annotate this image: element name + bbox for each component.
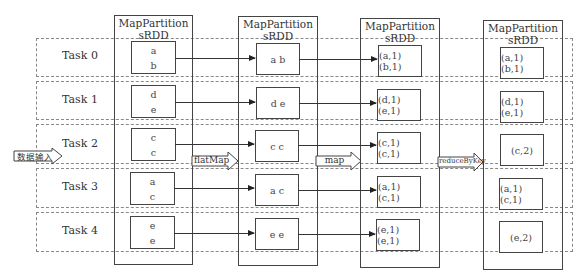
- partition-box: (a,1)(b,1): [378, 45, 422, 77]
- partition-box: (d,1)(e,1): [500, 91, 544, 123]
- reducebykey-label: reduceByKey: [439, 157, 481, 165]
- partition-box: d e: [256, 87, 300, 119]
- task-label-4: Task 4: [50, 224, 110, 237]
- partition-box: (e,1)(e,1): [376, 219, 420, 251]
- partition-box: c c: [131, 128, 176, 161]
- arrow-right-icon: [175, 58, 255, 59]
- column-title: MapPartition sRDD: [361, 20, 439, 44]
- arrow-right-icon: [298, 190, 376, 191]
- arrow-right-icon: [174, 233, 254, 234]
- column-title: MapPartition sRDD: [484, 22, 562, 46]
- column-title: MapPartition sRDD: [115, 17, 192, 41]
- partition-box: d e: [131, 85, 176, 118]
- partition-box: (c,2): [500, 134, 544, 166]
- partition-box: (c,1)(c,1): [377, 132, 421, 164]
- column-title: MapPartition sRDD: [239, 18, 317, 42]
- partition-box: (a,1)(b,1): [500, 47, 544, 79]
- partition-box: (a,1)(c,1): [499, 178, 543, 210]
- task-label-3: Task 3: [50, 180, 110, 193]
- data-input-label: 数据输入: [17, 150, 51, 162]
- arrow-right-icon: [299, 59, 377, 60]
- arrow-right-icon: [175, 102, 255, 103]
- arrow-right-icon: [298, 145, 376, 146]
- arrow-right-icon: [174, 188, 254, 189]
- arrow-right-icon: [175, 144, 254, 145]
- partition-box: a c: [130, 172, 175, 205]
- reducebykey-arrow: reduceByKey: [438, 153, 483, 171]
- partition-box: e e: [130, 216, 175, 249]
- partition-box: a b: [131, 41, 176, 74]
- partition-box: a c: [255, 174, 299, 206]
- partition-box: c c: [255, 130, 299, 162]
- flatmap-arrow: flatMap: [192, 152, 238, 170]
- map-label: map: [318, 155, 351, 165]
- task-label-0: Task 0: [50, 49, 110, 62]
- partition-box: (e,2): [499, 221, 543, 253]
- partition-box: e e: [255, 218, 299, 250]
- arrow-right-icon: [298, 234, 375, 235]
- data-input-arrow: 数据输入: [14, 148, 62, 164]
- partition-box: a b: [256, 43, 300, 75]
- arrow-right-icon: [299, 103, 376, 104]
- flatmap-label: flatMap: [194, 155, 228, 165]
- map-arrow: map: [316, 152, 361, 170]
- task-label-1: Task 1: [50, 93, 110, 106]
- partition-box: (d,1)(e,1): [377, 89, 421, 121]
- partition-box: (a,1)(c,1): [377, 176, 421, 208]
